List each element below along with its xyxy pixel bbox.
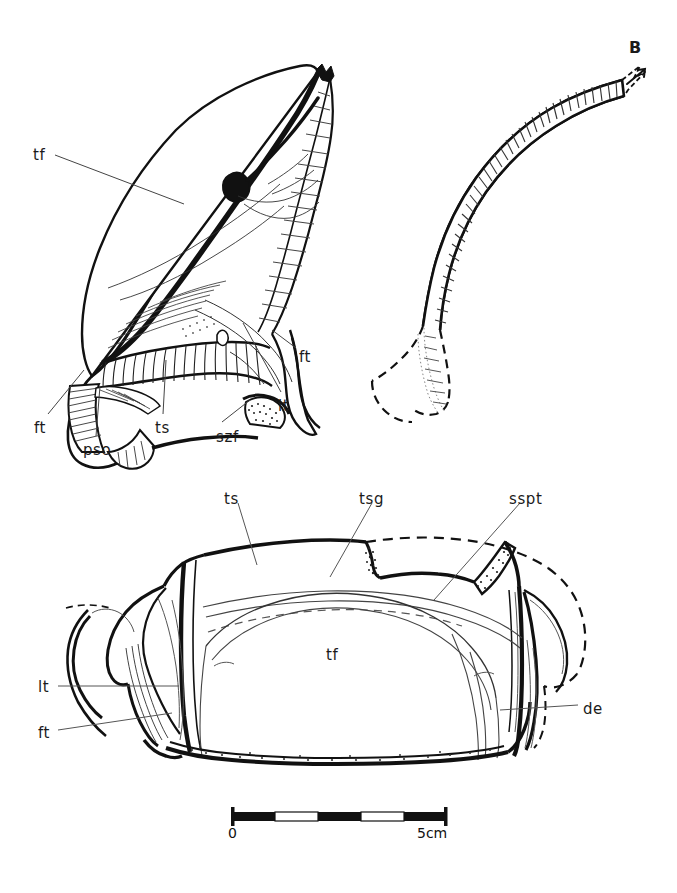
scale-bar-seg-2	[318, 812, 361, 821]
label-lt-right: lt	[278, 399, 289, 414]
ventral-left-tip	[144, 740, 182, 758]
scale-bar-seg-3	[361, 812, 404, 821]
caption-strip	[0, 866, 677, 893]
upper-left-specimen	[48, 64, 334, 469]
scale-bar	[231, 807, 448, 826]
label-tf-lower: tf	[326, 648, 338, 663]
label-pso: pso	[83, 443, 111, 458]
lower-specimen	[58, 503, 585, 764]
dome-main-arch-2	[212, 608, 491, 710]
scale-bar-seg-0	[232, 812, 275, 821]
label-ts-lower: ts	[224, 492, 239, 507]
rib-proximal-dotted	[418, 328, 445, 414]
label-tsg: tsg	[359, 492, 384, 507]
ventral-margin-inner	[170, 742, 504, 758]
label-panel-b: B	[629, 40, 641, 56]
ventral-process-tab	[108, 430, 154, 469]
rib-outer-edge-top	[423, 80, 622, 326]
rib-proximal-dashed-outer	[372, 326, 423, 381]
leader-ts-lower	[238, 503, 257, 565]
lower-dome-top-left	[204, 540, 366, 555]
central-boss	[223, 172, 250, 202]
scale-bar-end-label: 5cm	[417, 826, 447, 840]
ribbed-band-striations	[103, 343, 260, 388]
label-ft-bottom: ft	[38, 726, 50, 741]
label-szf: szf	[216, 430, 239, 445]
right-dashed-dorsal	[366, 538, 548, 569]
label-ft-lower: ft	[34, 421, 46, 436]
dome-descending-left	[200, 646, 206, 756]
ventral-bottom-margin	[152, 437, 258, 449]
figure-root: tf ft lt ft pso ts szf B ts tsg sspt tf …	[0, 0, 677, 893]
left-shoulder-arc	[92, 609, 134, 632]
scale-bar-seg-4	[404, 812, 447, 821]
scale-bar-cap-right	[444, 807, 448, 826]
dome-small-arc-left	[214, 662, 234, 666]
label-sspt: sspt	[509, 492, 542, 507]
dome-inner-arch-2	[206, 601, 520, 648]
label-tf-upper: tf	[33, 148, 45, 163]
pso-hatched-wedge	[95, 387, 160, 414]
dome-inner-arch-dashed	[208, 610, 462, 632]
dome-inner-arch-1	[203, 591, 522, 638]
rib-proximal-dashed-lower	[372, 381, 412, 422]
rib-shaft-fill	[423, 80, 624, 330]
ventral-margin-heavy	[166, 748, 508, 764]
dome-descending-right-3	[452, 634, 478, 760]
rib-outer-edge	[423, 80, 622, 326]
left-horn-striations	[126, 644, 168, 742]
label-ts-upper: ts	[155, 421, 170, 436]
left-shoulder-dash	[66, 605, 110, 608]
rib-tip-arrow	[627, 69, 645, 84]
scale-bar-start-label: 0	[228, 826, 237, 840]
scale-bar-seg-1	[275, 812, 318, 821]
label-lt-lower: lt	[38, 680, 49, 695]
scale-bar-cap-left	[231, 807, 235, 826]
leader-lines-lower	[58, 503, 578, 730]
right-suture-light2	[515, 592, 518, 732]
rib-proximal-dashed-inner	[440, 330, 450, 402]
right-suture-light	[509, 590, 512, 732]
mid-dorsal-margin	[380, 573, 474, 582]
upper-right-specimen	[372, 66, 645, 422]
label-de: de	[583, 702, 603, 717]
dome-descending-right-1	[496, 698, 499, 758]
label-ft-right: ft	[299, 350, 311, 365]
small-foramen	[217, 330, 228, 345]
